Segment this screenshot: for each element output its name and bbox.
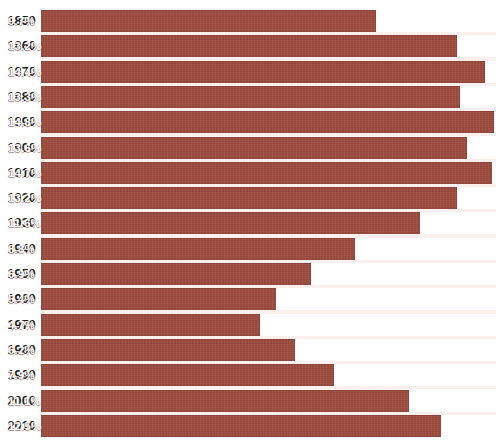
- bar-2000: [41, 390, 409, 412]
- bar-value-label-1880: 13.3%: [8, 86, 42, 108]
- bar-value-label-1920: 13.2%: [8, 187, 42, 209]
- bar-1850: [41, 10, 376, 32]
- bar-value-label-1980: 6.2%: [8, 339, 35, 361]
- bar-value-label-1990: 7.9%: [8, 364, 35, 386]
- bar-value-label-1930: 11.6%: [8, 212, 41, 234]
- bar-value-label-1970: 4.7%: [8, 314, 35, 336]
- bar-1870: [41, 61, 485, 83]
- bar-1930: [41, 212, 420, 234]
- bar-value-label-1890: 14.8%: [8, 111, 42, 133]
- bar-1960: [41, 288, 276, 310]
- bar-1950: [41, 263, 311, 285]
- bar-value-label-1910: 14.7%: [8, 162, 42, 184]
- bar-value-label-1850: 9.7%: [8, 10, 35, 32]
- bar-value-label-1950: 6.9%: [8, 263, 35, 285]
- bar-1980: [41, 339, 295, 361]
- bar-value-label-2010: 12.5%: [8, 415, 42, 437]
- bar-1990: [41, 364, 334, 386]
- bar-1910: [41, 162, 492, 184]
- bar-1940: [41, 238, 355, 260]
- bar-1970: [41, 314, 260, 336]
- bar-chart: 18509.7%186013.2%187014.4%188013.3%18901…: [0, 0, 496, 443]
- bar-1880: [41, 86, 460, 108]
- bar-value-label-1860: 13.2%: [8, 35, 42, 57]
- bar-1860: [41, 35, 457, 57]
- bar-row: 201012.5%: [0, 415, 496, 440]
- bar-value-label-1940: 8.8%: [8, 238, 35, 260]
- bar-1900: [41, 137, 467, 159]
- bar-value-label-1900: 13.6%: [8, 137, 42, 159]
- bar-1920: [41, 187, 457, 209]
- bar-2010: [41, 415, 441, 437]
- bar-value-label-1960: 5.4%: [8, 288, 35, 310]
- bar-value-label-2000: 11.1%: [8, 390, 41, 412]
- bar-value-label-1870: 14.4%: [8, 61, 42, 83]
- bar-1890: [41, 111, 494, 133]
